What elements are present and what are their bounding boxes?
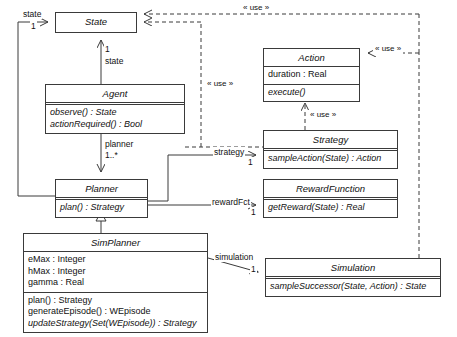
operation-item: updateStrategy(Set(WEpisode)) : Strategy — [28, 318, 203, 330]
operation-item: getReward(State) : Real — [268, 202, 393, 214]
attribute-item: eMax : Integer — [28, 254, 203, 266]
class-box-action[interactable]: Action duration : Real execute() — [263, 48, 360, 102]
multiplicity-label-planner: 1..* — [104, 150, 119, 160]
compartment-divider — [46, 102, 184, 103]
attributes-compartment-action: duration : Real — [264, 67, 359, 84]
operations-compartment-strategy: sampleAction(State) : Action — [264, 151, 397, 168]
operation-item: sampleAction(State) : Action — [268, 153, 393, 165]
class-box-simplanner[interactable]: SimPlanner eMax : Integer hMax : Integer… — [23, 233, 208, 333]
multiplicity-label-strategy: 1 — [247, 157, 254, 167]
class-box-agent[interactable]: Agent observe() : State actionRequired()… — [45, 84, 185, 134]
multiplicity-label-state-agent: 1 — [104, 44, 111, 54]
operations-compartment-simplanner: plan() : Strategy generateEpisode() : WE… — [24, 293, 207, 333]
operations-compartment-rewardfunction: getReward(State) : Real — [264, 200, 397, 217]
class-name-simplanner: SimPlanner — [24, 234, 207, 251]
class-name-state: State — [56, 13, 136, 30]
operation-item: actionRequired() : Bool — [50, 119, 180, 131]
class-name-agent: Agent — [46, 85, 184, 102]
role-label-strategy: strategy — [213, 147, 245, 157]
stereotype-label-use-left: « use » — [205, 79, 235, 89]
role-label-rewardfct: rewardFct — [211, 197, 251, 207]
operation-item: sampleSuccessor(State, Action) : State — [270, 281, 436, 293]
operations-compartment-planner: plan() : Strategy — [56, 200, 147, 217]
operation-item: execute() — [268, 87, 355, 99]
attribute-item: gamma : Real — [28, 277, 203, 289]
class-box-strategy[interactable]: Strategy sampleAction(State) : Action — [263, 130, 398, 169]
stereotype-label-use-strategy-action: « use » — [308, 110, 338, 120]
attributes-compartment-simplanner: eMax : Integer hMax : Integer gamma : Re… — [24, 252, 207, 292]
class-name-strategy: Strategy — [264, 131, 397, 148]
class-name-simulation: Simulation — [266, 259, 440, 276]
operations-compartment-agent: observe() : State actionRequired() : Boo… — [46, 105, 184, 133]
uml-class-diagram: State Agent observe() : State actionRequ… — [0, 0, 457, 337]
class-name-action: Action — [264, 49, 359, 66]
role-label-state-agent: state — [104, 56, 124, 66]
compartment-divider — [266, 276, 440, 277]
stereotype-label-use-top: « use » — [241, 3, 271, 13]
compartment-divider — [264, 197, 397, 198]
class-name-planner: Planner — [56, 180, 147, 197]
class-name-rewardfunction: RewardFunction — [264, 180, 397, 197]
operation-item: plan() : Strategy — [60, 202, 143, 214]
class-box-state[interactable]: State — [55, 12, 137, 33]
class-box-simulation[interactable]: Simulation sampleSuccessor(State, Action… — [265, 258, 441, 297]
compartment-divider — [264, 148, 397, 149]
attribute-item: duration : Real — [268, 69, 355, 81]
class-box-planner[interactable]: Planner plan() : Strategy — [55, 179, 148, 218]
multiplicity-label-simulation: 1 — [250, 264, 257, 274]
stereotype-label-use-action-right: « use » — [373, 44, 403, 54]
association-planner-strategy — [148, 155, 256, 201]
multiplicity-label-state-left: 1 — [30, 21, 37, 31]
operation-item: plan() : Strategy — [28, 295, 203, 307]
compartment-divider — [56, 197, 147, 198]
multiplicity-label-rewardfct: 1 — [250, 207, 257, 217]
operations-compartment-simulation: sampleSuccessor(State, Action) : State — [266, 279, 440, 296]
operations-compartment-action: execute() — [264, 85, 359, 102]
operation-item: generateEpisode() : WEpisode — [28, 306, 203, 318]
role-label-planner: planner — [104, 139, 134, 149]
role-label-state-left: state — [22, 9, 42, 19]
class-box-rewardfunction[interactable]: RewardFunction getReward(State) : Real — [263, 179, 398, 218]
attribute-item: hMax : Integer — [28, 266, 203, 278]
role-label-simulation: simulation — [214, 252, 254, 262]
operation-item: observe() : State — [50, 107, 180, 119]
